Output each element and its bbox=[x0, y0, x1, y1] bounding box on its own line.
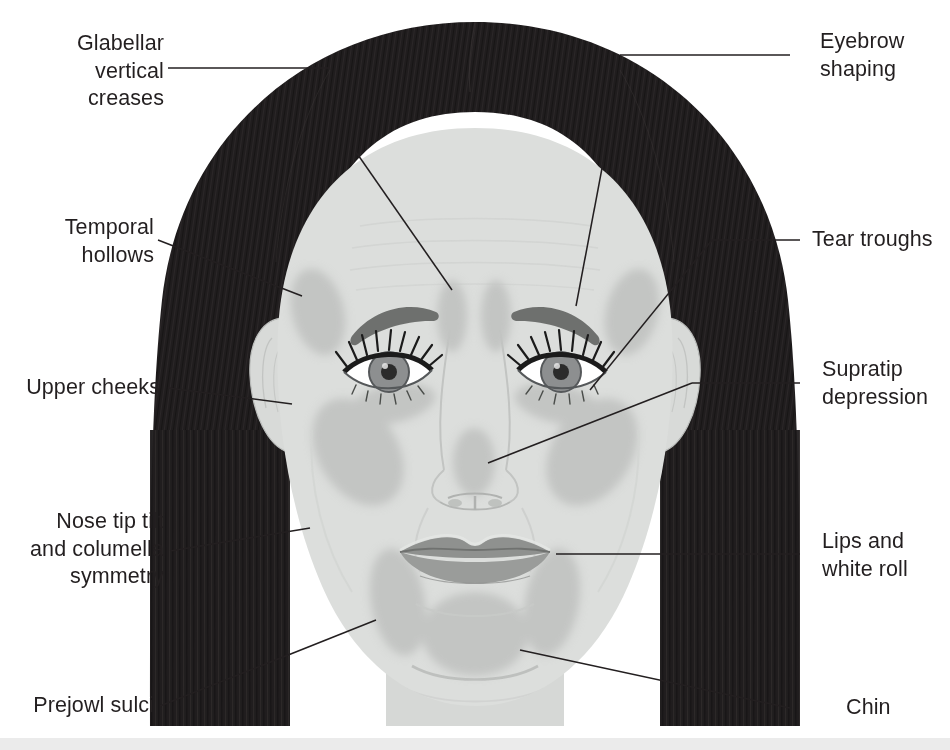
facial-treatment-zones-diagram: Glabellar vertical creases Temporal holl… bbox=[0, 0, 950, 750]
zone-chin bbox=[422, 592, 528, 676]
face bbox=[277, 128, 672, 706]
zone-glabellar-left bbox=[437, 280, 467, 352]
nostril-right bbox=[488, 499, 502, 507]
nostril-left bbox=[448, 499, 462, 507]
label-chin: Chin bbox=[846, 694, 946, 722]
zone-glabellar-right bbox=[481, 280, 511, 352]
label-upper-cheeks: Upper cheeks bbox=[10, 374, 160, 402]
label-tear-troughs: Tear troughs bbox=[812, 226, 950, 254]
label-nose-tip-tilt-and-columella-symmetry: Nose tip tilt and columella symmetry bbox=[6, 508, 164, 591]
label-glabellar-vertical-creases: Glabellar vertical creases bbox=[14, 30, 164, 113]
label-prejowl-sulci: Prejowl sulci bbox=[6, 692, 154, 720]
label-lips-and-white-roll: Lips and white roll bbox=[822, 528, 950, 583]
label-temporal-hollows: Temporal hollows bbox=[14, 214, 154, 269]
label-eyebrow-shaping: Eyebrow shaping bbox=[820, 28, 946, 83]
bottom-strip bbox=[0, 738, 950, 750]
label-supratip-depression: Supratip depression bbox=[822, 356, 950, 411]
